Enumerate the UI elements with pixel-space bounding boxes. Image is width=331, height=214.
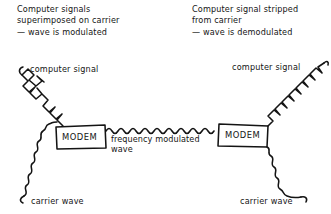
modem-right-label: MODEM [225,130,260,140]
carrier-wave-right-tail [301,197,307,202]
annotation-top-right: Computer signal stripped from carrier — … [192,4,298,38]
label-frequency-modulated-wave: frequency modulated wave [111,134,200,155]
label-computer-signal-right: computer signal [232,62,301,73]
carrier-wave-left-wave [24,122,57,196]
label-carrier-wave-right: carrier wave [240,196,293,207]
carrier-wave-right-wave [267,147,301,198]
computer-signal-left-wave [22,69,63,126]
label-computer-signal-left: computer signal [30,64,99,75]
label-carrier-wave-left: carrier wave [31,196,84,207]
computer-signal-right-tail [324,62,328,65]
frequency-modulated-wave [106,129,214,134]
diagram-canvas: Computer signals superimposed on carrier… [0,0,331,214]
carrier-wave-left-tail [20,196,24,203]
modem-left-label: MODEM [62,132,97,142]
annotation-top-left: Computer signals superimposed on carrier… [17,4,120,38]
